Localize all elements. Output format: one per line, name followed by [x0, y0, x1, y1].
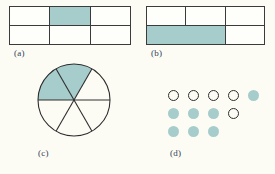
grid-cell	[225, 7, 264, 26]
dot-filled	[208, 108, 219, 119]
panel-a	[9, 6, 131, 45]
circle-sectors-c	[36, 62, 112, 138]
dot-filled	[248, 90, 259, 101]
grid-cell-shaded	[50, 7, 90, 26]
grid-cell	[186, 7, 225, 26]
dot-row	[168, 126, 259, 137]
grid-row	[10, 26, 131, 45]
dot-open	[228, 90, 239, 101]
grid-cell-shaded	[147, 26, 226, 45]
grid-cell	[90, 26, 130, 45]
grid-row	[147, 7, 265, 26]
dot-filled	[168, 126, 179, 137]
caption-b: (b)	[151, 48, 162, 58]
grid-cell	[147, 7, 186, 26]
dot-filled	[188, 108, 199, 119]
dot-filled	[168, 108, 179, 119]
grid-cell	[225, 26, 264, 45]
dot-row	[168, 108, 259, 119]
grid-cell	[10, 26, 50, 45]
panel-c	[36, 62, 112, 138]
dot-open	[188, 90, 199, 101]
caption-d: (d)	[170, 148, 181, 158]
rectangle-grid-b	[146, 6, 265, 45]
dot-row	[168, 90, 259, 101]
grid-cell	[50, 26, 90, 45]
fraction-figure: (a) (b) (c)	[0, 0, 275, 174]
panel-d	[168, 90, 259, 144]
grid-row	[147, 26, 265, 45]
dot-filled	[188, 126, 199, 137]
panel-b	[146, 6, 265, 45]
caption-a: (a)	[14, 48, 25, 58]
dot-open	[228, 108, 239, 119]
dot-filled	[208, 126, 219, 137]
dot-spacer	[248, 108, 259, 119]
grid-cell	[10, 7, 50, 26]
dot-spacer	[228, 126, 239, 137]
dot-open	[168, 90, 179, 101]
rectangle-grid-a	[9, 6, 131, 45]
grid-cell	[90, 7, 130, 26]
grid-row	[10, 7, 131, 26]
dot-spacer	[248, 126, 259, 137]
caption-c: (c)	[38, 148, 49, 158]
dot-open	[208, 90, 219, 101]
